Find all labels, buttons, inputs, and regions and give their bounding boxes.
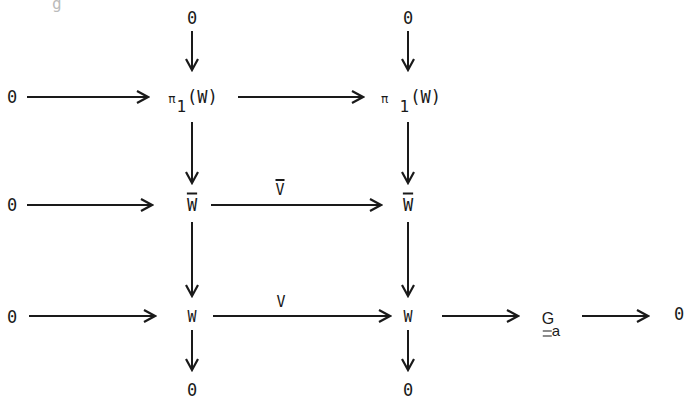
node-w-left: W: [187, 310, 196, 325]
node-bottom-zero-right: 0: [403, 382, 413, 399]
node-ga: G a: [542, 310, 554, 327]
node-row2-zero: 0: [7, 197, 17, 214]
node-pi1-w-right: π 1(W): [381, 89, 441, 106]
node-pi1-w-left: π1(W): [168, 89, 218, 106]
node-row1-zero: 0: [7, 89, 17, 106]
argument-w: (W): [187, 87, 218, 107]
subscript-1: 1: [176, 97, 186, 116]
node-wbar-right: W: [403, 197, 413, 214]
edge-label-vbar: V: [275, 181, 284, 199]
node-top-zero-right: 0: [403, 10, 413, 27]
pi-symbol: π: [168, 92, 175, 106]
node-wbar-left: W: [187, 197, 197, 214]
node-w-right: W: [403, 310, 412, 325]
edge-label-v: V: [276, 293, 285, 311]
node-bottom-zero-left: 0: [187, 382, 197, 399]
node-top-zero-left: 0: [187, 10, 197, 27]
pi-symbol: π: [381, 92, 388, 106]
argument-w: (W): [410, 87, 441, 107]
node-row3-right-zero: 0: [674, 306, 684, 323]
node-row3-zero: 0: [7, 309, 17, 326]
ga-subscript: a: [552, 323, 560, 338]
commutative-diagram: g: [0, 0, 688, 410]
subscript-1: 1: [400, 97, 410, 116]
arrows-layer: [0, 0, 688, 410]
double-underline: [543, 331, 552, 337]
